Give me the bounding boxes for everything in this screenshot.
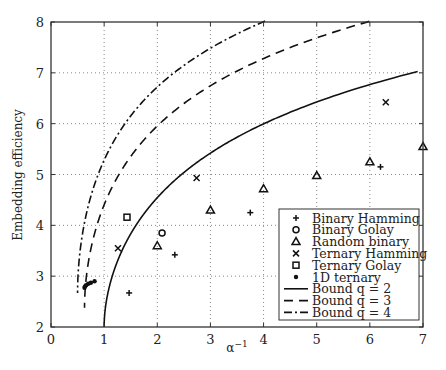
bound-curve-q4	[78, 21, 266, 293]
x-tick-label: 6	[366, 332, 374, 347]
y-tick-label: 2	[36, 320, 44, 335]
marker-plus	[172, 252, 178, 258]
x-tick-label: 0	[47, 332, 55, 347]
embedding-efficiency-chart: 012345672345678 α−1 Embedding efficiency…	[0, 0, 446, 370]
marker-triangle	[366, 158, 374, 165]
marker-triangle	[313, 172, 321, 179]
legend: Binary HammingBinary GolayRandom binaryT…	[279, 209, 427, 320]
legend-label: Bound q = 4	[312, 305, 391, 320]
y-tick-label: 8	[36, 15, 44, 30]
marker-x	[194, 175, 200, 181]
marker-plus	[126, 290, 132, 296]
x-tick-label: 4	[259, 332, 267, 347]
marker-triangle	[153, 242, 161, 249]
marker-triangle	[206, 206, 214, 213]
marker-plus	[377, 164, 383, 170]
y-axis-label: Embedding efficiency	[11, 109, 25, 241]
marker-x	[115, 245, 121, 251]
y-tick-label: 6	[36, 117, 44, 132]
x-axis-label: α−1	[226, 339, 247, 355]
x-tick-label: 2	[153, 332, 161, 347]
y-tick-label: 4	[36, 218, 44, 233]
y-tick-label: 7	[36, 66, 44, 81]
marker-x	[383, 99, 389, 105]
marker-circle	[159, 230, 165, 236]
x-tick-label: 5	[313, 332, 321, 347]
y-tick-label: 5	[36, 168, 44, 183]
y-tick-label: 3	[36, 269, 44, 284]
x-tick-label: 7	[419, 332, 427, 347]
x-tick-label: 1	[100, 332, 108, 347]
marker-square	[124, 214, 130, 220]
x-tick-label: 3	[206, 332, 214, 347]
marker-plus	[247, 210, 253, 216]
